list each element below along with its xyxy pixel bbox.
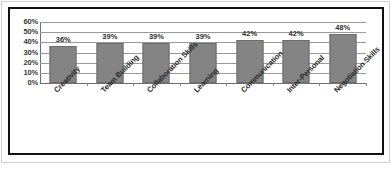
y-axis-tick-label: 50% <box>12 28 38 36</box>
bar-slot: 39% <box>87 22 134 83</box>
bar-value-label: 42% <box>289 30 304 38</box>
y-axis-tick-label: 30% <box>12 49 38 57</box>
bar-value-label: 42% <box>242 30 257 38</box>
x-axis-tick-mark <box>319 83 320 86</box>
x-axis-tick-mark <box>366 83 367 86</box>
y-axis-tick-label: 40% <box>12 38 38 46</box>
x-axis-tick-mark <box>133 83 134 86</box>
x-axis-tick-mark <box>226 83 227 86</box>
bar-slot: 39% <box>133 22 180 83</box>
y-axis-tick-label: 10% <box>12 69 38 77</box>
y-axis-tick-label: 0% <box>12 79 38 87</box>
plot-area: 36%39%39%39%42%42%48% <box>40 22 366 83</box>
bar-value-label: 39% <box>102 33 117 41</box>
y-axis-tick-labels: 0%10%20%30%40%50%60% <box>8 0 38 173</box>
bar-slot: 36% <box>40 22 87 83</box>
bar-value-label: 39% <box>195 33 210 41</box>
x-axis-tick-mark <box>87 83 88 86</box>
bar-value-label: 48% <box>335 24 350 32</box>
bar-value-label: 36% <box>56 36 71 44</box>
y-axis-tick-label: 60% <box>12 18 38 26</box>
x-axis-tick-mark <box>180 83 181 86</box>
y-axis-tick-label: 20% <box>12 59 38 67</box>
bar-slot: 48% <box>319 22 366 83</box>
bar-value-label: 39% <box>149 33 164 41</box>
x-axis-tick-mark <box>273 83 274 86</box>
